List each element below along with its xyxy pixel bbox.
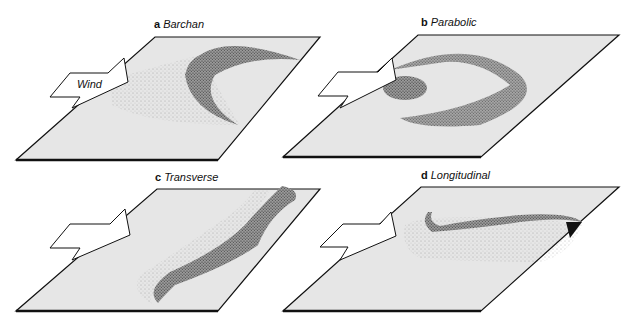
panel-d-longitudinal bbox=[283, 187, 619, 311]
panel-b-parabolic bbox=[283, 35, 619, 157]
panel-letter: d bbox=[421, 169, 428, 181]
wind-arrow-label: Wind bbox=[77, 78, 102, 90]
panel-name: Longitudinal bbox=[431, 169, 490, 181]
panel-name: Barchan bbox=[163, 18, 204, 30]
panel-name: Transverse bbox=[164, 171, 218, 183]
panel-letter: a bbox=[154, 18, 160, 30]
panel-label-a: aBarchan bbox=[154, 18, 204, 30]
panel-letter: b bbox=[421, 16, 428, 28]
panel-a-barchan bbox=[16, 37, 320, 160]
panel-label-d: dLongitudinal bbox=[421, 169, 490, 181]
panel-c-transverse bbox=[16, 186, 320, 311]
panel-label-c: cTransverse bbox=[155, 171, 218, 183]
dune-types-diagram bbox=[0, 0, 639, 333]
panel-name: Parabolic bbox=[431, 16, 477, 28]
panel-label-b: bParabolic bbox=[421, 16, 477, 28]
panel-letter: c bbox=[155, 171, 161, 183]
